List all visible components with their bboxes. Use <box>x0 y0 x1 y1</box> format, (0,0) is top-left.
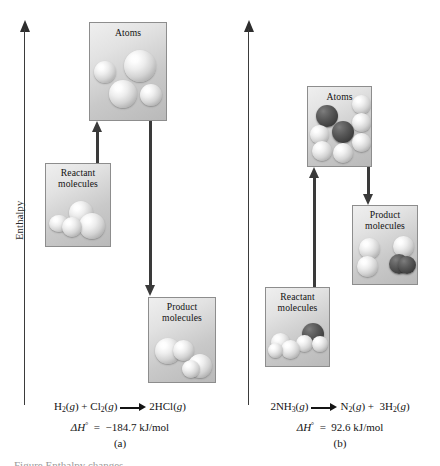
hydrogen-molecule-atom <box>357 256 378 277</box>
panel-a-reaction-line: H2(g) + Cl2(g)2HCl(g) <box>20 398 220 418</box>
hydrogen-atom <box>62 217 82 237</box>
panel-b-atoms-box: Atoms <box>307 86 372 167</box>
panel-a-arrow-reactants-to-atoms <box>96 131 99 163</box>
panel-b-reactant-scene <box>266 288 329 366</box>
panel-a-delta-h-line: ΔH° = −184.7 kJ/mol <box>20 418 220 436</box>
chlorine-atom <box>109 80 137 108</box>
axis-shaft <box>248 29 249 405</box>
chlorine-atom <box>124 50 156 82</box>
nitrogen-atom <box>332 121 354 143</box>
panel-a-reactant-scene <box>46 164 110 246</box>
enthalpy-diagram-figure: Enthalpy Atoms Reactant molecules Produc… <box>0 0 440 466</box>
panel-b-arrow-atoms-to-products <box>367 167 370 195</box>
nitrogen-molecule-atom <box>398 256 416 274</box>
panel-b-arrow-reactants-to-atoms <box>313 177 316 287</box>
panel-b-atoms-scene <box>308 87 371 166</box>
panel-b-reactant-box: Reactant molecules <box>265 287 330 367</box>
hydrogen-atom <box>268 343 283 358</box>
figure-caption: Figure Enthalpy changes <box>14 459 432 466</box>
reaction-arrow-icon <box>311 403 337 412</box>
panel-b-letter: (b) <box>240 437 440 449</box>
panel-a-letter: (a) <box>20 437 220 449</box>
panel-b-reaction-line: 2NH3(g)N2(g) + 3H2(g) <box>240 398 440 418</box>
hydrogen-atom <box>94 61 116 83</box>
hydrogen-atom <box>352 113 371 132</box>
panel-a-product-scene <box>149 298 215 382</box>
chlorine-atom <box>79 213 105 239</box>
axis-label-enthalpy: Enthalpy <box>14 200 25 240</box>
panel-b-product-box: Product molecules <box>352 205 418 285</box>
hydrogen-atom <box>140 84 162 106</box>
hydrogen-atom <box>312 141 332 161</box>
panel-a-product-box: Product molecules <box>148 297 216 383</box>
hydrogen-atom <box>352 133 371 152</box>
hydrogen-atom <box>281 340 300 359</box>
panel-a-reactant-box: Reactant molecules <box>45 163 111 247</box>
panel-a-atoms-box: Atoms <box>89 22 167 121</box>
panel-b-product-scene <box>353 206 417 284</box>
panel-a-equation: H2(g) + Cl2(g)2HCl(g) ΔH° = −184.7 kJ/mo… <box>20 398 220 436</box>
reaction-arrow-icon <box>120 403 146 412</box>
panel-b-equation: 2NH3(g)N2(g) + 3H2(g) ΔH° = 92.6 kJ/mol <box>240 398 440 436</box>
hydrogen-atom <box>352 95 371 114</box>
hydrogen-atom <box>182 360 200 378</box>
panel-a-atoms-scene <box>90 23 166 120</box>
hydrogen-atom <box>312 336 328 352</box>
panel-b-delta-h-line: ΔH° = 92.6 kJ/mol <box>240 418 440 436</box>
panel-a-arrow-atoms-to-products <box>149 121 152 286</box>
hydrogen-atom <box>333 143 353 163</box>
